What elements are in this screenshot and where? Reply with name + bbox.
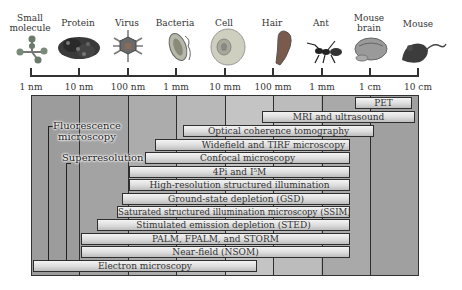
- tick: [30, 68, 32, 76]
- bar-4pi-i5m: 4Pi and I⁵M: [129, 166, 350, 178]
- protein-icon: [56, 33, 102, 63]
- bar-hr-structured-illumination: High-resolution structured illumination: [129, 179, 350, 191]
- bar-near-field: Near-field (NSOM): [81, 246, 350, 258]
- superresolution-bracket: [66, 163, 71, 261]
- tick: [175, 68, 177, 76]
- bacteria-icon: [165, 30, 193, 64]
- cell-icon: [210, 28, 246, 66]
- fluorescence-microscopy-label: Fluorescence microscopy: [53, 120, 121, 142]
- tick-label: 1 nm: [6, 82, 56, 92]
- tick-label: 1 mm: [151, 82, 201, 92]
- bar-confocal: Confocal microscopy: [145, 152, 350, 164]
- hair-icon: [272, 29, 294, 67]
- tick-label: 1 cm: [345, 82, 395, 92]
- tick-label: 10 mm: [200, 82, 250, 92]
- tick-label: 1 mm: [297, 82, 347, 92]
- tick: [417, 68, 419, 76]
- tick: [272, 68, 274, 76]
- bar-palm-fpalm-storm: PALM, FPALM, and STORM: [81, 233, 350, 245]
- mouse-brain-icon: [353, 36, 389, 64]
- tick: [224, 68, 226, 76]
- tick-label: 100 nm: [103, 82, 153, 92]
- ant-icon: [305, 37, 345, 65]
- tick-label: 10 nm: [54, 82, 104, 92]
- bar-electron-microscopy: Electron microscopy: [33, 260, 257, 272]
- bar-sted: Stimulated emission depletion (STED): [97, 219, 350, 231]
- mouse-icon: [400, 36, 448, 66]
- tick: [127, 68, 129, 76]
- virus-icon: [111, 28, 145, 64]
- bar-pet: PET: [355, 97, 412, 109]
- tick-label: 100 mm: [248, 82, 298, 92]
- label-mouse: Mouse: [383, 19, 453, 29]
- bar-oct: Optical coherence tomography: [183, 125, 374, 137]
- superresolution-label: Superresolution: [62, 152, 144, 163]
- tick: [369, 68, 371, 76]
- bar-gsd: Ground-state depletion (GSD): [122, 193, 350, 205]
- bar-mri-ultrasound: MRI and ultrasound: [262, 111, 415, 123]
- tick-label: 10 cm: [393, 82, 443, 92]
- tick: [78, 68, 80, 76]
- molecule-icon: [14, 34, 48, 64]
- fluorescence-bracket: [48, 126, 53, 261]
- tick: [321, 68, 323, 76]
- bar-widefield-tirf: Widefield and TIRF microscopy: [155, 139, 350, 151]
- bar-ssim: Saturated structured illumination micros…: [117, 206, 350, 218]
